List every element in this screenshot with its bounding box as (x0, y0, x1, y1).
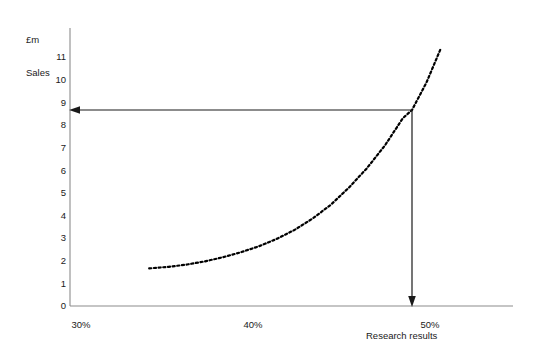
vertical-readoff-arrow (408, 110, 416, 307)
plot-area (0, 0, 533, 358)
sales-vs-research-results-chart: £m Sales 11 10 9 8 7 6 5 4 3 2 1 0 30% 4… (0, 0, 533, 358)
horizontal-readoff-arrow (69, 106, 412, 114)
sales-curve-dotted-line (149, 48, 441, 268)
